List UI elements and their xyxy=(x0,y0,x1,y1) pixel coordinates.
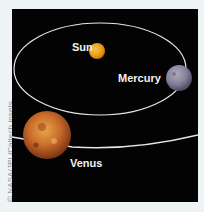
diagram-panel: Sun Mercury Venus xyxy=(12,9,198,202)
image-credit: © NASA/JPL/Caltech insets xyxy=(0,0,12,212)
mercury-icon xyxy=(166,65,192,91)
sun-label: Sun xyxy=(72,41,93,53)
orbit-diagram xyxy=(12,9,198,202)
mercury-orbit xyxy=(14,23,186,115)
venus-icon xyxy=(23,111,71,159)
mercury-label: Mercury xyxy=(118,72,161,84)
venus-label: Venus xyxy=(70,157,102,169)
